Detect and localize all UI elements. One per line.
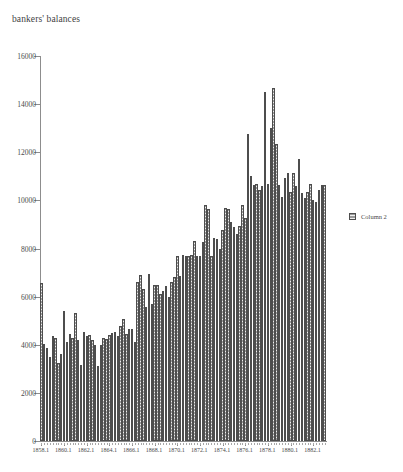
x-axis-minor-tick bbox=[78, 443, 79, 445]
x-axis-minor-tick bbox=[67, 443, 68, 445]
x-axis-minor-tick bbox=[175, 443, 176, 445]
x-axis-minor-tick bbox=[293, 443, 294, 445]
x-axis-tick-label: 1860.1 bbox=[55, 447, 72, 453]
x-axis-tick-label: 1882.1 bbox=[304, 447, 321, 453]
x-axis-minor-tick bbox=[61, 443, 62, 445]
x-axis-minor-tick bbox=[308, 443, 309, 445]
x-axis-minor-tick bbox=[152, 443, 153, 445]
x-axis-minor-tick bbox=[109, 443, 110, 445]
x-axis-minor-tick bbox=[50, 443, 51, 445]
x-axis-minor-tick bbox=[274, 443, 275, 445]
x-axis-minor-tick bbox=[259, 443, 260, 445]
x-axis-tick-label: 1874.1 bbox=[214, 447, 231, 453]
x-axis-minor-tick bbox=[107, 443, 108, 445]
x-axis-minor-tick bbox=[262, 443, 263, 445]
x-axis-minor-tick bbox=[276, 443, 277, 445]
x-axis-minor-tick bbox=[231, 443, 232, 445]
x-axis-minor-tick bbox=[223, 443, 224, 445]
x-axis-minor-tick bbox=[132, 443, 133, 445]
x-axis-minor-tick bbox=[248, 443, 249, 445]
x-axis-minor-tick bbox=[257, 443, 258, 445]
x-axis-minor-tick bbox=[53, 443, 54, 445]
x-axis-minor-tick bbox=[70, 443, 71, 445]
x-axis-minor-tick bbox=[104, 443, 105, 445]
x-axis-minor-tick bbox=[197, 443, 198, 445]
x-axis-minor-tick bbox=[220, 443, 221, 445]
x-axis-minor-tick bbox=[302, 443, 303, 445]
x-axis-tick-label: 1862.1 bbox=[78, 447, 95, 453]
x-axis-minor-tick bbox=[322, 443, 323, 445]
x-axis-minor-tick bbox=[271, 443, 272, 445]
x-axis-minor-tick bbox=[203, 443, 204, 445]
x-axis-minor-tick bbox=[206, 443, 207, 445]
x-axis-minor-tick bbox=[299, 443, 300, 445]
x-axis-minor-tick bbox=[124, 443, 125, 445]
x-axis-tick-label: 1880.1 bbox=[282, 447, 299, 453]
x-axis-minor-tick bbox=[135, 443, 136, 445]
x-axis-minor-tick bbox=[214, 443, 215, 445]
x-axis-minor-tick bbox=[112, 443, 113, 445]
x-axis-minor-tick bbox=[234, 443, 235, 445]
x-axis-minor-tick bbox=[194, 443, 195, 445]
x-axis-minor-tick bbox=[44, 443, 45, 445]
x-axis-minor-tick bbox=[101, 443, 102, 445]
x-axis-minor-tick bbox=[172, 443, 173, 445]
chart-root: bankers' balances 0200040006000800010000… bbox=[0, 0, 403, 472]
x-axis-minor-tick bbox=[177, 443, 178, 445]
x-axis-minor-tick bbox=[305, 443, 306, 445]
x-axis-minor-tick bbox=[138, 443, 139, 445]
x-axis-minor-tick bbox=[285, 443, 286, 445]
x-axis-minor-tick bbox=[251, 443, 252, 445]
y-axis-tick-label: 8000 bbox=[2, 245, 36, 254]
x-axis-minor-tick bbox=[166, 443, 167, 445]
x-axis-minor-tick bbox=[296, 443, 297, 445]
legend-label: Column 2 bbox=[361, 213, 387, 220]
x-axis-minor-tick bbox=[56, 443, 57, 445]
x-axis-minor-tick bbox=[115, 443, 116, 445]
x-axis-minor-tick bbox=[211, 443, 212, 445]
x-axis-minor-tick bbox=[41, 443, 42, 445]
y-axis-labels: 0200040006000800010000120001400016000 bbox=[0, 0, 36, 472]
y-axis-tick-label: 16000 bbox=[2, 52, 36, 61]
x-axis-minor-tick bbox=[208, 443, 209, 445]
x-axis-minor-tick bbox=[242, 443, 243, 445]
x-axis-minor-tick bbox=[183, 443, 184, 445]
y-axis-tick-label: 14000 bbox=[2, 100, 36, 109]
x-axis-minor-tick bbox=[279, 443, 280, 445]
x-axis-minor-tick bbox=[84, 443, 85, 445]
x-axis-minor-tick bbox=[75, 443, 76, 445]
plot-area bbox=[40, 56, 326, 441]
x-axis-tick-label: 1864.1 bbox=[100, 447, 117, 453]
x-axis-minor-tick bbox=[95, 443, 96, 445]
x-axis-tick-label: 1868.1 bbox=[146, 447, 163, 453]
x-axis-minor-tick bbox=[228, 443, 229, 445]
x-axis-minor-tick bbox=[87, 443, 88, 445]
x-axis-minor-tick bbox=[163, 443, 164, 445]
x-axis-minor-tick bbox=[73, 443, 74, 445]
x-axis-minor-tick bbox=[92, 443, 93, 445]
x-axis-minor-tick bbox=[313, 443, 314, 445]
x-axis-minor-tick bbox=[268, 443, 269, 445]
x-axis-minor-tick bbox=[98, 443, 99, 445]
x-axis-minor-tick bbox=[282, 443, 283, 445]
x-axis-minor-tick bbox=[325, 443, 326, 445]
legend-swatch-icon bbox=[349, 213, 356, 220]
x-axis-tick-label: 1878.1 bbox=[259, 447, 276, 453]
x-axis-minor-tick bbox=[288, 443, 289, 445]
y-axis-tick-label: 2000 bbox=[2, 389, 36, 398]
y-axis-tick-label: 0 bbox=[2, 437, 36, 446]
x-axis-minor-tick bbox=[143, 443, 144, 445]
x-axis-minor-tick bbox=[47, 443, 48, 445]
x-axis-minor-tick bbox=[126, 443, 127, 445]
x-axis-minor-tick bbox=[81, 443, 82, 445]
x-axis-minor-tick bbox=[291, 443, 292, 445]
x-axis-minor-tick bbox=[141, 443, 142, 445]
x-axis-minor-tick bbox=[90, 443, 91, 445]
x-axis-minor-tick bbox=[146, 443, 147, 445]
x-axis-minor-tick bbox=[225, 443, 226, 445]
x-axis-minor-tick bbox=[240, 443, 241, 445]
x-axis-tick-label: 1872.1 bbox=[191, 447, 208, 453]
y-axis-tick-label: 10000 bbox=[2, 196, 36, 205]
x-axis-minor-tick bbox=[180, 443, 181, 445]
x-axis-minor-tick bbox=[245, 443, 246, 445]
